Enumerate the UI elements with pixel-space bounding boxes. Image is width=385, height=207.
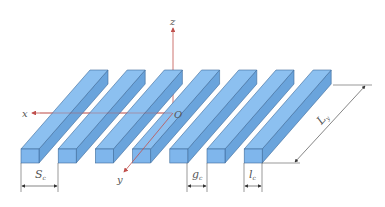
period-label: Sc	[35, 168, 47, 181]
origin-label: O	[174, 109, 182, 120]
grating-diagram: x y z O Sc gc lc Ly	[0, 0, 385, 207]
width-label: lc	[249, 168, 257, 181]
x-axis-label: x	[22, 108, 28, 119]
z-axis-label: z	[169, 16, 176, 27]
gap-label: gc	[192, 168, 203, 181]
y-axis-label: y	[116, 174, 123, 185]
length-label: Ly	[313, 110, 332, 129]
